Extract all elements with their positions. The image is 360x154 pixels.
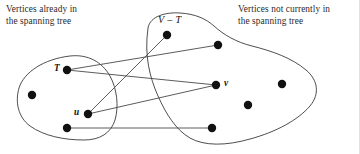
region-outline-non-tree: [147, 13, 317, 144]
vertex-f: [244, 101, 252, 109]
spanning-tree-figure: Vertices already in the spanning tree Ve…: [0, 0, 360, 154]
edge-u-v: [88, 85, 216, 114]
vertex-label-v: v: [224, 78, 228, 88]
vertex-t: [63, 66, 71, 74]
vertex-v: [212, 81, 220, 89]
vertex-u: [84, 110, 92, 118]
vertex-b: [63, 124, 71, 132]
edge-t-d: [67, 45, 218, 70]
edge-u-c: [88, 35, 167, 114]
vertex-c: [163, 31, 171, 39]
vertex-a: [28, 91, 36, 99]
vertex-e: [278, 80, 286, 88]
vertex-g: [208, 124, 216, 132]
edge-t-v: [67, 70, 216, 85]
vertex-label-u: u: [74, 107, 79, 117]
region-label-v-minus-t: V – T: [158, 14, 182, 25]
vertex-label-t: T: [54, 63, 60, 73]
vertex-d: [214, 41, 222, 49]
